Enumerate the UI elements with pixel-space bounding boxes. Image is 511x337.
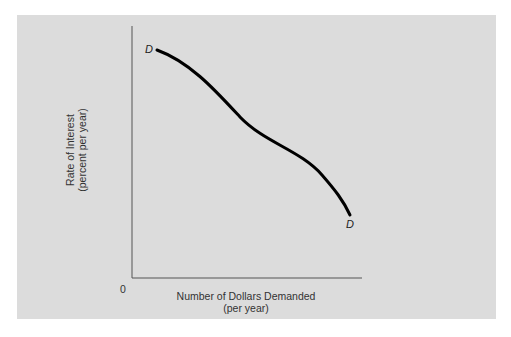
x-axis-label-line1: Number of Dollars Demanded	[177, 290, 316, 302]
origin-label: 0	[120, 283, 126, 295]
x-axis-label-line2: (per year)	[177, 302, 316, 314]
y-axis-label-line2: (percent per year)	[76, 70, 88, 230]
demand-curve	[157, 50, 350, 215]
y-axis-label-line1: Rate of Interest	[64, 70, 76, 230]
curve-start-label: D	[145, 43, 153, 55]
curve-end-label: D	[346, 218, 354, 230]
x-axis-label: Number of Dollars Demanded (per year)	[177, 290, 316, 314]
y-axis-label: Rate of Interest (percent per year)	[64, 70, 88, 230]
